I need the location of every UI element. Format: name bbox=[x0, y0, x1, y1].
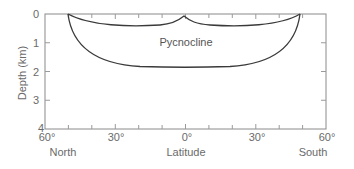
x-axis-title: Latitude bbox=[166, 146, 205, 158]
y-tick-label-1: 1 bbox=[33, 37, 39, 49]
x-tick-label-60S: 60° bbox=[319, 131, 336, 143]
south-label: South bbox=[299, 146, 328, 158]
pycnocline-top-curve bbox=[68, 14, 300, 26]
x-tick-label-30S: 30° bbox=[249, 131, 266, 143]
y-tick-label-2: 2 bbox=[33, 66, 39, 78]
x-tick-label-30N: 30° bbox=[108, 131, 125, 143]
y-axis-ticks bbox=[45, 43, 326, 101]
y-tick-label-0: 0 bbox=[33, 8, 39, 20]
pycnocline-chart: 0 1 2 3 4 Depth (km) 60° 30° 0° 30° 60° … bbox=[0, 0, 354, 169]
x-tick-label-0: 0° bbox=[182, 131, 193, 143]
north-label: North bbox=[50, 146, 77, 158]
x-axis-ticks-bottom bbox=[68, 124, 302, 129]
y-tick-label-3: 3 bbox=[33, 94, 39, 106]
y-axis-title: Depth (km) bbox=[16, 46, 28, 100]
x-tick-label-60N: 60° bbox=[39, 131, 56, 143]
pycnocline-label: Pycnocline bbox=[159, 36, 212, 48]
plot-frame bbox=[45, 14, 326, 129]
